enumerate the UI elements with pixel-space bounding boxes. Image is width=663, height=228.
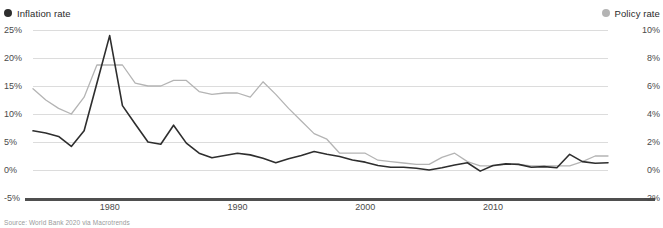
y-tick-label-left: -5% [4, 194, 20, 203]
y-tick-label-right: -2% [644, 194, 660, 203]
plot-area [0, 0, 663, 228]
x-tick-label: 2010 [483, 203, 503, 212]
x-tick-label: 1980 [100, 203, 120, 212]
x-tick-label: 2000 [355, 203, 375, 212]
y-tick-label-right: 6% [647, 82, 660, 91]
y-tick-label-right: 4% [647, 110, 660, 119]
y-tick-label-left: 20% [4, 54, 22, 63]
policy-rate-legend-dot-icon [602, 9, 610, 17]
y-tick-label-left: 0% [4, 166, 17, 175]
legend-item-inflation-rate: Inflation rate [4, 6, 71, 20]
y-tick-label-left: 10% [4, 110, 22, 119]
y-tick-label-right: 8% [647, 54, 660, 63]
legend-item-policy-rate: Policy rate [602, 6, 660, 20]
inflation-rate-legend-dot-icon [4, 9, 12, 17]
legend-label-policy-rate: Policy rate [615, 8, 660, 19]
legend-label-inflation-rate: Inflation rate [17, 8, 71, 19]
y-tick-label-left: 25% [4, 26, 22, 35]
y-tick-label-right: 10% [642, 26, 660, 35]
y-tick-label-left: 15% [4, 82, 22, 91]
y-tick-label-right: 2% [647, 138, 660, 147]
series-line-inflation-rate [33, 36, 608, 172]
y-tick-label-right: 0% [647, 166, 660, 175]
dual-axis-line-chart: Inflation rate Policy rate 25%20%15%10%5… [0, 0, 663, 228]
source-note: Source: World Bank 2020 via Macrotrends [4, 219, 130, 226]
series-line-policy-rate [33, 65, 608, 166]
y-tick-label-left: 5% [4, 138, 17, 147]
x-tick-label: 1990 [227, 203, 247, 212]
